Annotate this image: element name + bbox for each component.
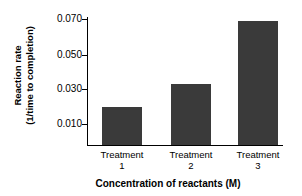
x-axis-title: Concentration of reactants (M) [40, 178, 296, 189]
x-tick-number-0: 1 [84, 161, 160, 172]
x-tick-name-0: Treatment [84, 150, 160, 161]
bar-chart-figure: Reaction rate (1/time to completion) 0.0… [0, 0, 302, 196]
x-tick-number-1: 2 [153, 161, 229, 172]
x-tick-number-2: 3 [220, 161, 296, 172]
x-tick-label-treatment-2: Treatment 2 [153, 150, 229, 171]
x-tick-name-2: Treatment [220, 150, 296, 161]
bar-treatment-3 [238, 21, 278, 145]
bar-treatment-2 [171, 84, 211, 145]
x-tick-label-treatment-1: Treatment 1 [84, 150, 160, 171]
x-tick-label-treatment-3: Treatment 3 [220, 150, 296, 171]
x-tick-name-1: Treatment [153, 150, 229, 161]
bar-treatment-1 [102, 107, 142, 146]
